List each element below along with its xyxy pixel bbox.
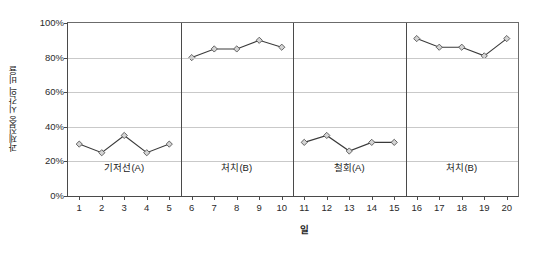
x-tick-mark [462, 196, 463, 200]
x-tick-mark [192, 196, 193, 200]
y-tick-mark [64, 23, 68, 24]
x-tick-mark [372, 196, 373, 200]
y-tick-label: 20% [24, 157, 64, 167]
x-tick-label: 20 [501, 202, 512, 213]
phase-label: 철회(A) [334, 160, 365, 174]
x-tick-label: 2 [99, 202, 104, 213]
x-tick-label: 15 [389, 202, 400, 213]
phase-label: 처치(B) [446, 160, 477, 174]
x-tick-mark [439, 196, 440, 200]
x-tick-label: 13 [344, 202, 355, 213]
y-tick-label: 100% [24, 18, 64, 28]
x-tick-label: 9 [257, 202, 262, 213]
x-tick-mark [304, 196, 305, 200]
phase-divider [181, 23, 182, 196]
x-tick-label: 17 [434, 202, 445, 213]
x-axis-tick-labels: 1234567891011121314151617181920 [67, 202, 519, 218]
x-axis-title: 일 [300, 222, 309, 236]
x-tick-mark [79, 196, 80, 200]
x-tick-label: 6 [189, 202, 194, 213]
x-tick-mark [349, 196, 350, 200]
x-tick-mark [282, 196, 283, 200]
phase-label: 기저선(A) [104, 160, 144, 174]
y-tick-mark [64, 58, 68, 59]
x-tick-label: 4 [144, 202, 149, 213]
y-axis-tick-labels: 100%80%60%40%20%0% [22, 0, 64, 273]
data-point-marker [436, 44, 442, 50]
x-tick-mark [124, 196, 125, 200]
plot-area: 기저선(A)처치(B)철회(A)처치(B) [67, 22, 519, 197]
x-tick-mark [214, 196, 215, 200]
x-tick-label: 11 [299, 202, 309, 213]
x-tick-mark [394, 196, 395, 200]
phase-label: 처치(B) [221, 160, 252, 174]
data-point-marker [234, 46, 240, 52]
chart-figure: 과제집중 시간의 비율 100%80%60%40%20%0% 기저선(A)처치(… [0, 0, 533, 273]
x-tick-mark [102, 196, 103, 200]
phase-divider [406, 23, 407, 196]
data-point-marker [256, 37, 262, 43]
y-tick-mark [64, 161, 68, 162]
data-point-marker [301, 139, 307, 145]
x-tick-label: 16 [411, 202, 422, 213]
x-tick-mark [169, 196, 170, 200]
x-tick-mark [507, 196, 508, 200]
y-tick-mark [64, 127, 68, 128]
x-tick-mark [259, 196, 260, 200]
data-point-marker [369, 139, 375, 145]
x-tick-label: 12 [321, 202, 332, 213]
phase-divider [293, 23, 294, 196]
data-point-marker [211, 46, 217, 52]
data-point-marker [391, 139, 397, 145]
y-tick-label: 40% [24, 122, 64, 132]
x-tick-label: 14 [366, 202, 377, 213]
y-tick-mark [64, 196, 68, 197]
x-tick-mark [327, 196, 328, 200]
x-tick-label: 5 [167, 202, 172, 213]
x-tick-mark [484, 196, 485, 200]
data-point-marker [76, 141, 82, 147]
y-tick-label: 60% [24, 87, 64, 97]
x-tick-label: 3 [122, 202, 127, 213]
x-tick-label: 19 [479, 202, 490, 213]
data-point-marker [459, 44, 465, 50]
data-point-marker [166, 141, 172, 147]
x-tick-label: 10 [276, 202, 287, 213]
x-tick-mark [147, 196, 148, 200]
y-axis-title-text: 과제집중 시간의 비율 [6, 66, 19, 152]
x-tick-label: 7 [212, 202, 217, 213]
x-tick-label: 1 [77, 202, 82, 213]
data-point-marker [279, 44, 285, 50]
x-tick-mark [237, 196, 238, 200]
x-tick-label: 8 [234, 202, 239, 213]
data-point-marker [414, 35, 420, 41]
y-tick-label: 80% [24, 53, 64, 63]
y-tick-label: 0% [24, 191, 64, 201]
x-tick-mark [417, 196, 418, 200]
y-axis-title: 과제집중 시간의 비율 [3, 22, 21, 197]
y-tick-mark [64, 92, 68, 93]
x-tick-label: 18 [456, 202, 467, 213]
